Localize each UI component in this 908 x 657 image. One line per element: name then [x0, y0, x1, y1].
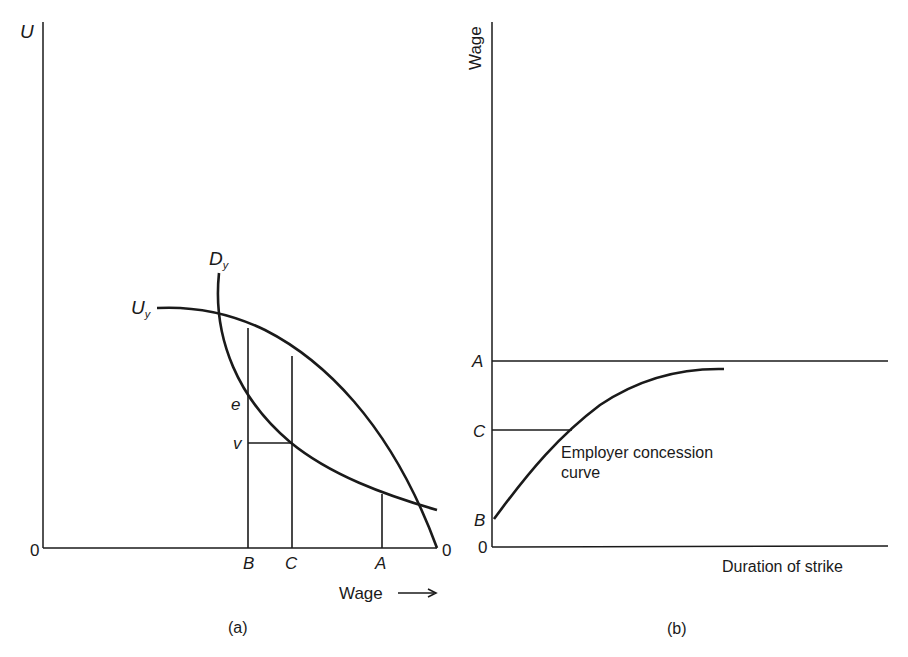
- curve-label-line1: Employer concession: [561, 444, 713, 461]
- panel-a-x-axis-label: Wage: [339, 584, 383, 603]
- right-arrow-icon: [398, 589, 436, 597]
- panel-b-y-axis-label: Wage: [466, 26, 485, 70]
- panel-a-origin-left: 0: [30, 541, 39, 560]
- dy-label: Dy: [209, 248, 230, 271]
- panel-b-x-axis: [492, 546, 888, 547]
- panel-a-origin-right: 0: [442, 541, 451, 560]
- y-tick-c: C: [473, 422, 486, 441]
- diagram-canvas: U 0 0 Uy Dy e v B C A Wage (a) Wage A C …: [0, 0, 908, 657]
- uy-curve: [157, 308, 437, 548]
- panel-b-caption: (b): [667, 620, 687, 637]
- point-v-label: v: [233, 434, 243, 453]
- point-e-label: e: [231, 395, 240, 414]
- panel-a-y-axis-label: U: [20, 21, 34, 42]
- x-tick-b: B: [243, 554, 254, 573]
- x-tick-c: C: [285, 554, 298, 573]
- panel-b-x-axis-label: Duration of strike: [722, 558, 843, 575]
- panel-a-caption: (a): [228, 619, 248, 636]
- y-tick-a: A: [471, 352, 483, 371]
- panel-b: Wage A C B 0 Employer concession curve D…: [466, 22, 888, 637]
- panel-a: U 0 0 Uy Dy e v B C A Wage (a): [20, 21, 451, 636]
- panel-b-origin: 0: [478, 538, 487, 557]
- y-tick-b: B: [474, 511, 485, 530]
- curve-label-line2: curve: [561, 464, 600, 481]
- x-tick-a: A: [374, 554, 386, 573]
- uy-label: Uy: [131, 297, 152, 320]
